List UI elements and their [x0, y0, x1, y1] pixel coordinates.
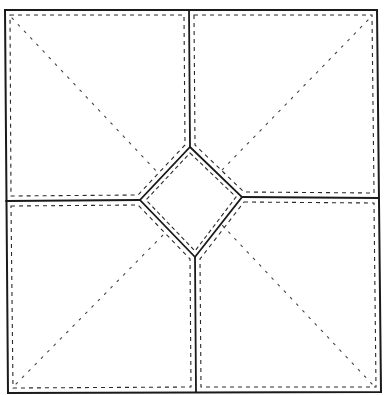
quilt-block-diagram [0, 0, 388, 395]
left-seam [6, 200, 140, 201]
right-seam [242, 197, 379, 198]
top-seam [189, 10, 190, 147]
bottom-seam [195, 257, 196, 392]
